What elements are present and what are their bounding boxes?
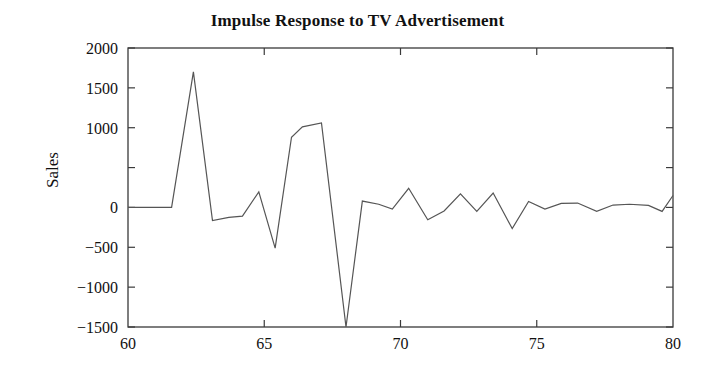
- y-tick-marks: [128, 48, 673, 327]
- x-tick-marks: [264, 48, 537, 327]
- data-series-group: [128, 72, 673, 327]
- x-tick-label: 75: [529, 335, 545, 352]
- x-tick-label: 70: [393, 335, 409, 352]
- axis-frame: [128, 48, 673, 327]
- x-tick-labels: 6065707580: [120, 335, 681, 352]
- series-line: [128, 72, 673, 327]
- x-tick-label: 60: [120, 335, 136, 352]
- y-tick-label: −500: [85, 239, 118, 256]
- y-tick-labels: −1500−1000−5000100015002000: [77, 40, 118, 336]
- y-tick-label: −1000: [77, 279, 118, 296]
- y-tick-label: 2000: [86, 40, 118, 57]
- y-tick-label: 1000: [86, 120, 118, 137]
- chart-figure: Impulse Response to TV Advertisement Sal…: [0, 0, 715, 383]
- y-tick-label: 1500: [86, 80, 118, 97]
- y-tick-label: −1500: [77, 319, 118, 336]
- x-tick-label: 65: [256, 335, 272, 352]
- y-tick-label: 0: [110, 199, 118, 216]
- plot-area: −1500−1000−5000100015002000 6065707580: [0, 0, 715, 383]
- x-tick-label: 80: [665, 335, 681, 352]
